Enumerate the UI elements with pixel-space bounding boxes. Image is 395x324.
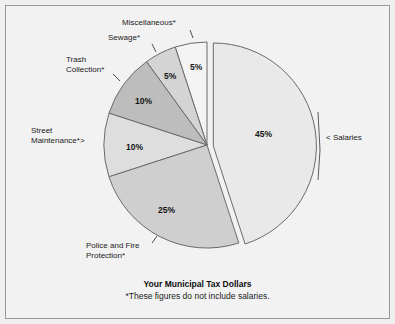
pct-label-street: 10% bbox=[126, 142, 143, 152]
leader-arrow-police bbox=[152, 236, 157, 243]
pct-label-trash: 10% bbox=[135, 96, 152, 106]
label-sewage: Sewage* bbox=[108, 33, 140, 43]
chart-title: Your Municipal Tax Dollars bbox=[0, 278, 395, 290]
label-trash-collection-line1: Trash bbox=[66, 55, 86, 65]
pct-label-police: 25% bbox=[158, 205, 175, 215]
label-miscellaneous: Miscellaneous* bbox=[122, 18, 176, 28]
pct-label-miscellaneous: 5% bbox=[190, 62, 202, 72]
chart-caption: Your Municipal Tax Dollars *These figure… bbox=[0, 278, 395, 302]
leader-line-salaries bbox=[318, 112, 320, 180]
leader-arrow-miscellaneous bbox=[190, 30, 193, 38]
pie-chart bbox=[0, 0, 395, 324]
label-police-and-fire-line2: Protection* bbox=[86, 251, 125, 261]
pct-label-salaries: 45% bbox=[255, 129, 272, 139]
leader-arrow-sewage bbox=[152, 44, 156, 52]
label-police-and-fire-line1: Police and Fire bbox=[86, 241, 139, 251]
leader-arrow-trash-collection bbox=[113, 74, 120, 81]
pct-label-sewage: 5% bbox=[164, 71, 176, 81]
label-street-maintenance-line2: Maintenance*> bbox=[31, 136, 85, 146]
chart-figure: < Salaries Miscellaneous* Sewage* Trash … bbox=[0, 0, 395, 324]
label-street-maintenance-line1: Street bbox=[31, 126, 52, 136]
label-trash-collection-line2: Collection* bbox=[66, 65, 104, 75]
chart-subtitle: *These figures do not include salaries. bbox=[0, 290, 395, 302]
label-salaries: < Salaries bbox=[326, 133, 362, 143]
